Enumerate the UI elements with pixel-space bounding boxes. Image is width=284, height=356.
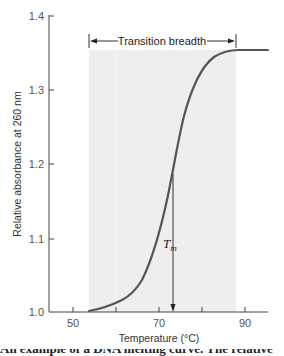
y-tick-label-1-2: 1.2	[29, 158, 44, 170]
melting-curve-chart: 1.4 1.3 1.2 1.1 1.0 Relative absorbance …	[0, 0, 284, 356]
y-tick-label-1-0: 1.0	[29, 306, 44, 318]
transition-left-arrowhead-icon	[90, 39, 97, 44]
x-tick-label-70: 70	[153, 317, 165, 329]
y-tick-label-1-3: 1.3	[29, 84, 44, 96]
y-axis-label: Relative absorbance at 260 nm	[11, 91, 23, 237]
y-ticks	[49, 16, 54, 239]
x-tick-label-90: 90	[239, 317, 251, 329]
transition-right-arrowhead-icon	[228, 39, 235, 44]
x-tick-label-50: 50	[67, 317, 79, 329]
y-tick-label-1-1: 1.1	[29, 233, 44, 245]
y-tick-label-1-4: 1.4	[29, 10, 44, 22]
transition-breadth-label: Transition breadth	[118, 35, 206, 47]
tm-label-sub: m	[170, 243, 177, 253]
x-axis-label: Temperature (°C)	[119, 332, 200, 344]
transition-shaded-region	[89, 50, 236, 312]
